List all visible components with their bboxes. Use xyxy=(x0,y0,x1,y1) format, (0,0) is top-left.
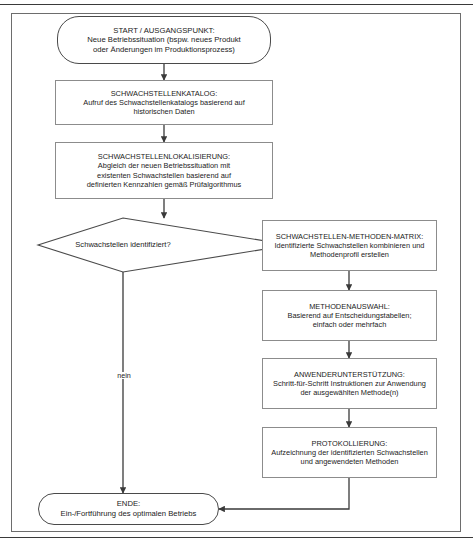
node-methodenauswahl-text: METHODENAUSWAHL: Basierend auf Entscheid… xyxy=(282,302,416,330)
node-decision-schwachstellen-identifiziert: Schwachstellen identifiziert? xyxy=(50,233,196,257)
node-start: START / AUSGANGSPUNKT: Neue Betriebssitu… xyxy=(57,16,271,64)
node-anwenderunterstuetzung: ANWENDERUNTERSTÜTZUNG: Schritt-für-Schri… xyxy=(262,358,437,409)
edge-label-nein: nein xyxy=(110,372,138,379)
node-schwachstellen-methoden-matrix-text: SCHWACHSTELLEN-METHODEN-MATRIX: Identifi… xyxy=(270,232,430,260)
node-schwachstellenkatalog-text: SCHWACHSTELLENKATALOG: Aufruf des Schwac… xyxy=(78,89,249,117)
node-decision-text: Schwachstellen identifiziert? xyxy=(70,240,175,249)
node-start-text: START / AUSGANGSPUNKT: Neue Betriebssitu… xyxy=(82,26,245,55)
node-anwenderunterstuetzung-text: ANWENDERUNTERSTÜTZUNG: Schritt-für-Schri… xyxy=(268,370,431,398)
flowchart-page: START / AUSGANGSPUNKT: Neue Betriebssitu… xyxy=(0,0,473,540)
node-methodenauswahl: METHODENAUSWAHL: Basierend auf Entscheid… xyxy=(262,290,437,341)
node-ende: ENDE: Ein-/Fortführung des optimalen Bet… xyxy=(38,493,219,525)
node-schwachstellenlokalisierung-text: SCHWACHSTELLENLOKALISIERUNG: Abgleich de… xyxy=(82,152,246,189)
node-schwachstellen-methoden-matrix: SCHWACHSTELLEN-METHODEN-MATRIX: Identifi… xyxy=(262,220,437,271)
node-schwachstellenlokalisierung: SCHWACHSTELLENLOKALISIERUNG: Abgleich de… xyxy=(55,142,273,199)
node-ende-text: ENDE: Ein-/Fortführung des optimalen Bet… xyxy=(56,499,202,518)
node-protokollierung: PROTOKOLLIERUNG: Aufzeichnung der identi… xyxy=(262,427,437,478)
node-protokollierung-text: PROTOKOLLIERUNG: Aufzeichnung der identi… xyxy=(266,439,433,467)
edge-protokoll-to-ende xyxy=(219,478,349,509)
node-schwachstellenkatalog: SCHWACHSTELLENKATALOG: Aufruf des Schwac… xyxy=(55,80,273,125)
